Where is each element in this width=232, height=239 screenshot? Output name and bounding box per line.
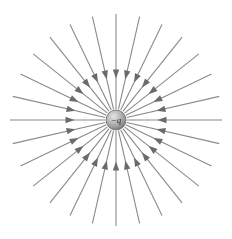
figure-root: −q bbox=[0, 0, 232, 239]
charge-label: −q bbox=[111, 115, 122, 125]
electric-field-diagram: −q bbox=[0, 0, 232, 239]
